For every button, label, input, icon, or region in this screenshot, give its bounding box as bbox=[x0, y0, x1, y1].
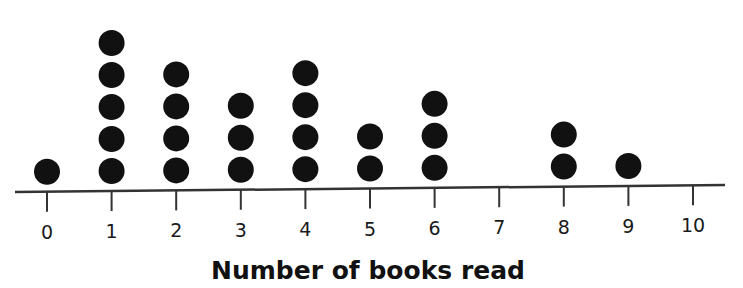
data-dot bbox=[551, 122, 577, 148]
x-tick-label: 6 bbox=[429, 217, 441, 239]
data-dot bbox=[422, 155, 448, 181]
data-dot bbox=[551, 154, 577, 180]
data-dot bbox=[357, 156, 383, 182]
data-dot bbox=[34, 159, 60, 185]
data-dot bbox=[163, 61, 189, 87]
data-dot bbox=[422, 91, 448, 117]
x-tick-label: 7 bbox=[493, 216, 505, 238]
x-axis-tick-labels: 012345678910 bbox=[41, 214, 705, 242]
data-dot bbox=[99, 30, 125, 56]
data-dot bbox=[228, 125, 254, 151]
x-axis-ticks bbox=[47, 185, 693, 211]
x-axis-title: Number of books read bbox=[211, 256, 525, 285]
x-tick-label: 2 bbox=[170, 219, 182, 241]
x-tick-label: 8 bbox=[558, 216, 570, 238]
data-dot bbox=[228, 157, 254, 183]
data-dot bbox=[292, 60, 318, 86]
data-dot bbox=[99, 94, 125, 120]
x-tick-label: 0 bbox=[41, 221, 53, 243]
data-dot bbox=[292, 92, 318, 118]
x-tick-label: 9 bbox=[622, 215, 634, 237]
data-dot bbox=[357, 124, 383, 150]
x-tick-label: 1 bbox=[106, 220, 118, 242]
data-dot bbox=[292, 124, 318, 150]
x-tick-label: 5 bbox=[364, 218, 376, 240]
data-dot bbox=[99, 126, 125, 152]
x-tick-label: 3 bbox=[235, 219, 247, 241]
data-dots bbox=[34, 30, 641, 185]
dot-plot-chart: 012345678910 Number of books read bbox=[0, 0, 743, 288]
data-dot bbox=[99, 62, 125, 88]
data-dot bbox=[228, 93, 254, 119]
data-dot bbox=[615, 153, 641, 179]
data-dot bbox=[163, 157, 189, 183]
x-tick-label: 4 bbox=[299, 218, 311, 240]
data-dot bbox=[422, 123, 448, 149]
x-tick-label: 10 bbox=[681, 214, 705, 236]
data-dot bbox=[292, 156, 318, 182]
data-dot bbox=[163, 93, 189, 119]
data-dot bbox=[99, 158, 125, 184]
data-dot bbox=[163, 125, 189, 151]
